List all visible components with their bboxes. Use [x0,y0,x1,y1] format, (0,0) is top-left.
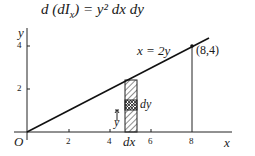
x-axis-label: x [224,135,230,151]
origin-label: O [14,134,23,150]
x-tick-6: 6 [148,136,153,146]
point-label: (8,4) [196,43,219,58]
element-dy [125,100,137,110]
x-tick-4: 4 [107,136,112,146]
y-axis-label: y [18,25,24,41]
line-label: x = 2y [137,43,170,59]
dx-label: dx [123,134,135,150]
x-tick-2: 2 [66,136,71,146]
y-distance-label: y [114,115,119,130]
dy-label: dy [140,97,151,112]
y-tick-2: 2 [17,83,22,93]
y-tick-4: 4 [17,40,22,50]
x-tick-8: 8 [189,136,194,146]
diagram [0,0,255,156]
point-8-4 [190,44,194,48]
